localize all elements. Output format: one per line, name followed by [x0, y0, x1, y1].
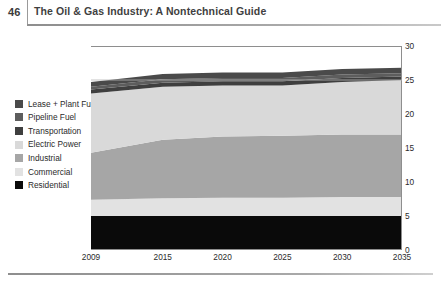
y-axis-tick-label: 15 [405, 143, 414, 153]
x-axis-tick-label: 2025 [273, 252, 291, 262]
legend-swatch-icon [15, 181, 23, 189]
legend-item-label: Lease + Plant Fuel [28, 100, 97, 108]
page-header: 46 The Oil & Gas Industry: A Nontechnica… [0, 0, 441, 26]
x-axis-tick-label: 2009 [82, 252, 100, 262]
legend-item-label: Commercial [28, 168, 72, 176]
x-axis: 200920152020202520302035 [0, 252, 441, 266]
x-axis-tick-label: 2030 [333, 252, 351, 262]
legend-swatch-icon [15, 127, 23, 135]
y-axis: 051015202530 [405, 46, 435, 250]
y-axis-tick-label: 20 [405, 109, 414, 119]
x-axis-tick-label: 2015 [154, 252, 172, 262]
legend-swatch-icon [15, 168, 23, 176]
folio-divider [27, 0, 28, 26]
legend-item-label: Electric Power [28, 140, 81, 148]
legend-item-label: Pipeline Fuel [28, 113, 76, 121]
y-axis-tick-label: 10 [405, 177, 414, 187]
header-rule [27, 24, 441, 26]
x-axis-tick-label: 2035 [393, 252, 411, 262]
area-series [91, 197, 402, 216]
chart-plot-area [91, 46, 402, 250]
legend-swatch-icon [15, 100, 23, 108]
running-title: The Oil & Gas Industry: A Nontechnical G… [34, 5, 266, 17]
y-axis-tick-label: 5 [405, 211, 410, 221]
legend-item-label: Residential [28, 181, 69, 189]
legend-item-label: Industrial [28, 154, 62, 162]
area-series [91, 216, 402, 250]
stacked-area-chart [91, 46, 402, 250]
footer-rule [8, 273, 433, 275]
legend-swatch-icon [15, 113, 23, 121]
legend-swatch-icon [15, 154, 23, 162]
y-axis-tick-label: 25 [405, 75, 414, 85]
x-axis-tick-label: 2020 [213, 252, 231, 262]
legend-item-label: Transportation [28, 127, 81, 135]
page-number: 46 [8, 6, 21, 18]
y-axis-tick-label: 30 [405, 41, 414, 51]
legend-swatch-icon [15, 141, 23, 149]
